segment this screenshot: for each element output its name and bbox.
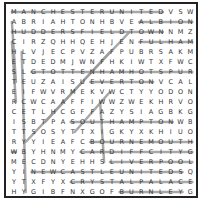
letter-cell[interactable]: E [87, 37, 97, 47]
letter-cell[interactable]: G [185, 147, 195, 157]
letter-cell[interactable]: I [166, 127, 176, 137]
letter-cell[interactable]: H [166, 37, 176, 47]
letter-cell[interactable]: P [48, 117, 58, 127]
letter-cell[interactable]: Z [87, 47, 97, 57]
letter-cell[interactable]: W [127, 97, 137, 107]
letter-cell[interactable]: Y [68, 147, 78, 157]
letter-cell[interactable]: Y [87, 177, 97, 187]
letter-cell[interactable]: N [48, 157, 58, 167]
letter-cell[interactable]: F [78, 97, 88, 107]
letter-cell[interactable]: K [176, 107, 186, 117]
letter-cell[interactable]: L [97, 167, 107, 177]
letter-cell[interactable]: T [68, 67, 78, 77]
letter-cell[interactable]: O [176, 17, 186, 27]
letter-cell[interactable]: I [136, 107, 146, 117]
letter-cell[interactable]: T [127, 77, 137, 87]
letter-cell[interactable]: A [9, 17, 19, 27]
letter-cell[interactable]: F [38, 177, 48, 187]
letter-cell[interactable]: Y [9, 167, 19, 177]
letter-cell[interactable]: I [87, 27, 97, 37]
letter-cell[interactable]: U [176, 67, 186, 77]
letter-cell[interactable]: E [19, 107, 29, 117]
letter-cell[interactable]: H [9, 187, 19, 197]
letter-cell[interactable]: E [136, 157, 146, 167]
letter-cell[interactable]: Y [9, 177, 19, 187]
letter-cell[interactable]: O [38, 127, 48, 137]
letter-cell[interactable]: P [117, 47, 127, 57]
letter-cell[interactable]: S [48, 127, 58, 137]
letter-cell[interactable]: B [48, 187, 58, 197]
letter-cell[interactable]: A [48, 17, 58, 27]
letter-cell[interactable]: F [87, 107, 97, 117]
letter-cell[interactable]: M [58, 147, 68, 157]
letter-cell[interactable]: N [117, 7, 127, 17]
letter-cell[interactable]: A [48, 97, 58, 107]
letter-cell[interactable]: T [19, 57, 29, 67]
letter-cell[interactable]: P [156, 157, 166, 167]
letter-cell[interactable]: M [9, 7, 19, 17]
letter-cell[interactable]: N [127, 137, 137, 147]
letter-cell[interactable]: A [166, 47, 176, 57]
letter-cell[interactable]: M [185, 37, 195, 47]
letter-cell[interactable]: N [146, 77, 156, 87]
letter-cell[interactable]: T [9, 77, 19, 87]
letter-cell[interactable]: L [185, 77, 195, 87]
letter-cell[interactable]: E [136, 97, 146, 107]
letter-cell[interactable]: F [29, 87, 39, 97]
letter-cell[interactable]: C [38, 7, 48, 17]
letter-cell[interactable]: Y [176, 187, 186, 197]
letter-cell[interactable]: M [127, 117, 137, 127]
letter-cell[interactable]: O [176, 87, 186, 97]
letter-cell[interactable]: R [9, 97, 19, 107]
letter-cell[interactable]: S [176, 7, 186, 17]
letter-cell[interactable]: M [146, 137, 156, 147]
letter-cell[interactable]: A [146, 177, 156, 187]
letter-cell[interactable]: B [87, 137, 97, 147]
letter-cell[interactable]: T [107, 177, 117, 187]
letter-cell[interactable]: K [117, 57, 127, 67]
letter-cell[interactable]: L [156, 37, 166, 47]
letter-cell[interactable]: D [38, 157, 48, 167]
letter-cell[interactable]: E [48, 27, 58, 37]
letter-cell[interactable]: R [185, 67, 195, 77]
letter-cell[interactable]: A [68, 167, 78, 177]
letter-cell[interactable]: U [19, 27, 29, 37]
letter-cell[interactable]: S [156, 67, 166, 77]
letter-cell[interactable]: T [29, 107, 39, 117]
letter-cell[interactable]: Y [136, 87, 146, 97]
letter-cell[interactable]: C [58, 107, 68, 117]
letter-cell[interactable]: E [117, 37, 127, 47]
letter-cell[interactable]: M [176, 27, 186, 37]
letter-cell[interactable]: E [38, 57, 48, 67]
letter-cell[interactable]: N [29, 167, 39, 177]
letter-cell[interactable]: S [78, 167, 88, 177]
letter-cell[interactable]: G [156, 107, 166, 117]
letter-cell[interactable]: F [68, 97, 78, 107]
letter-cell[interactable]: D [117, 27, 127, 37]
letter-cell[interactable]: N [68, 187, 78, 197]
letter-cell[interactable]: G [29, 67, 39, 77]
letter-cell[interactable]: Y [146, 87, 156, 97]
letter-cell[interactable]: N [29, 7, 39, 17]
letter-cell[interactable]: T [68, 127, 78, 137]
letter-cell[interactable]: T [146, 167, 156, 177]
letter-cell[interactable]: O [166, 157, 176, 167]
letter-cell[interactable]: I [166, 17, 176, 27]
letter-cell[interactable]: Y [29, 137, 39, 147]
letter-cell[interactable]: W [29, 97, 39, 107]
letter-cell[interactable]: E [78, 87, 88, 97]
letter-cell[interactable]: H [58, 37, 68, 47]
letter-cell[interactable]: S [68, 117, 78, 127]
letter-cell[interactable]: J [107, 37, 117, 47]
letter-cell[interactable]: S [97, 177, 107, 187]
letter-cell[interactable]: W [78, 57, 88, 67]
letter-cell[interactable]: N [127, 167, 137, 177]
letter-cell[interactable]: H [9, 27, 19, 37]
letter-cell[interactable]: I [156, 147, 166, 157]
letter-cell[interactable]: A [87, 147, 97, 157]
letter-cell[interactable]: L [156, 187, 166, 197]
letter-cell[interactable]: I [38, 17, 48, 27]
letter-cell[interactable]: F [127, 147, 137, 157]
letter-cell[interactable]: A [146, 107, 156, 117]
letter-cell[interactable]: A [176, 37, 186, 47]
